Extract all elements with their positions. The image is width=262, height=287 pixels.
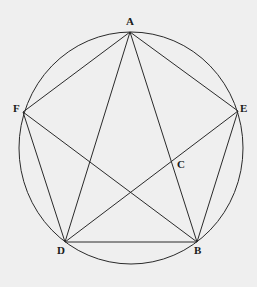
segment-ae [130, 32, 238, 111]
label-e: E [240, 102, 247, 114]
label-f: F [13, 102, 20, 114]
chord-segments [23, 32, 238, 242]
segment-ab [130, 32, 197, 242]
label-d: D [57, 244, 65, 256]
segment-ad [65, 32, 130, 242]
diagram-stage: A F E C D B [0, 0, 262, 287]
label-b: B [194, 244, 202, 256]
geometry-figure: A F E C D B [0, 0, 257, 287]
segment-fb [23, 112, 197, 242]
label-a: A [126, 15, 134, 27]
segment-fd [23, 112, 65, 242]
point-labels: A F E C D B [13, 15, 247, 256]
segment-ed [65, 111, 238, 242]
segment-af [23, 32, 130, 112]
diagram-panel: A F E C D B [0, 0, 257, 287]
label-c: C [177, 158, 185, 170]
circumscribed-circle [19, 32, 243, 264]
